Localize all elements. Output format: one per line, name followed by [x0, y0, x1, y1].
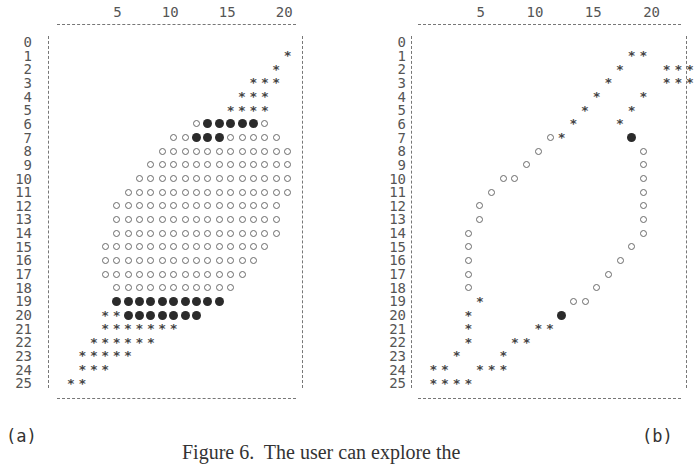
- star-marker-icon: *: [272, 76, 280, 89]
- grid-cell: [146, 242, 156, 252]
- grid-cell: [146, 296, 156, 306]
- star-marker-icon: *: [546, 322, 554, 335]
- grid-cell: [260, 160, 270, 170]
- open-circle-marker-icon: [193, 230, 200, 237]
- grid-cell: [180, 269, 190, 279]
- grid-cell: *: [428, 365, 438, 375]
- grid-cell: [123, 296, 133, 306]
- open-circle-marker-icon: [465, 243, 472, 250]
- open-circle-marker-icon: [250, 216, 257, 223]
- star-marker-icon: *: [78, 349, 86, 362]
- open-circle-marker-icon: [170, 216, 177, 223]
- grid-cell: [134, 269, 144, 279]
- open-circle-marker-icon: [147, 230, 154, 237]
- open-circle-marker-icon: [182, 216, 189, 223]
- grid-cell: [191, 119, 201, 129]
- open-circle-marker-icon: [535, 148, 542, 155]
- open-circle-marker-icon: [605, 271, 612, 278]
- grid-cell: *: [89, 351, 99, 361]
- filled-circle-marker-icon: [181, 311, 190, 320]
- open-circle-marker-icon: [239, 161, 246, 168]
- grid-cell: [260, 146, 270, 156]
- grid-cell: [112, 255, 122, 265]
- open-circle-marker-icon: [193, 189, 200, 196]
- grid-cell: [134, 174, 144, 184]
- grid-cell: [475, 201, 485, 211]
- open-circle-marker-icon: [125, 189, 132, 196]
- open-circle-marker-icon: [216, 257, 223, 264]
- grid-cell: *: [66, 378, 76, 388]
- filled-circle-marker-icon: [135, 297, 144, 306]
- grid-cell: [237, 174, 247, 184]
- grid-cell: *: [100, 337, 110, 347]
- open-circle-marker-icon: [170, 148, 177, 155]
- grid-cell: [169, 174, 179, 184]
- open-circle-marker-icon: [227, 216, 234, 223]
- open-circle-marker-icon: [193, 202, 200, 209]
- open-circle-marker-icon: [261, 202, 268, 209]
- grid-cell: [157, 228, 167, 238]
- grid-cell: [157, 160, 167, 170]
- star-marker-icon: *: [453, 349, 461, 362]
- open-circle-marker-icon: [216, 243, 223, 250]
- grid-cell: [203, 269, 213, 279]
- grid-cell: [260, 214, 270, 224]
- open-circle-marker-icon: [136, 284, 143, 291]
- grid-cell: *: [112, 324, 122, 334]
- filled-circle-marker-icon: [135, 311, 144, 320]
- grid-cell: [260, 119, 270, 129]
- open-circle-marker-icon: [170, 257, 177, 264]
- grid-cell: *: [146, 324, 156, 334]
- grid-cell: [271, 228, 281, 238]
- open-circle-marker-icon: [227, 271, 234, 278]
- grid-cell: [237, 201, 247, 211]
- open-circle-marker-icon: [159, 216, 166, 223]
- star-marker-icon: *: [476, 295, 484, 308]
- grid-cell: [123, 283, 133, 293]
- open-circle-marker-icon: [261, 161, 268, 168]
- open-circle-marker-icon: [125, 202, 132, 209]
- open-circle-marker-icon: [182, 230, 189, 237]
- grid-cell: [475, 214, 485, 224]
- grid-cell: *: [100, 365, 110, 375]
- grid-cell: [580, 296, 590, 306]
- grid-cell: [169, 296, 179, 306]
- filled-circle-marker-icon: [627, 133, 636, 142]
- grid-cell: *: [615, 64, 625, 74]
- grid-cell: *: [498, 365, 508, 375]
- star-marker-icon: *: [249, 104, 257, 117]
- grid-cell: [180, 255, 190, 265]
- open-circle-marker-icon: [204, 284, 211, 291]
- grid-cell: [134, 242, 144, 252]
- open-circle-marker-icon: [182, 189, 189, 196]
- grid-cell: [568, 296, 578, 306]
- open-circle-marker-icon: [147, 216, 154, 223]
- grid-cell: [169, 242, 179, 252]
- open-circle-marker-icon: [125, 243, 132, 250]
- star-marker-icon: *: [534, 322, 542, 335]
- star-marker-icon: *: [663, 63, 671, 76]
- filled-circle-marker-icon: [192, 311, 201, 320]
- open-circle-marker-icon: [640, 202, 647, 209]
- grid-cell: *: [568, 119, 578, 129]
- open-circle-marker-icon: [511, 175, 518, 182]
- left-dashed-border: [48, 36, 49, 388]
- grid-cell: [510, 174, 520, 184]
- open-circle-marker-icon: [216, 161, 223, 168]
- open-circle-marker-icon: [204, 202, 211, 209]
- open-circle-marker-icon: [216, 202, 223, 209]
- open-circle-marker-icon: [125, 216, 132, 223]
- grid-cell: *: [475, 296, 485, 306]
- grid-cell: [271, 133, 281, 143]
- grid-cell: *: [283, 51, 293, 61]
- open-circle-marker-icon: [465, 257, 472, 264]
- grid-cell: *: [522, 337, 532, 347]
- grid-cell: *: [134, 324, 144, 334]
- grid-cell: *: [673, 64, 683, 74]
- open-circle-marker-icon: [170, 175, 177, 182]
- open-circle-marker-icon: [250, 243, 257, 250]
- grid-cell: [592, 283, 602, 293]
- open-circle-marker-icon: [102, 271, 109, 278]
- star-marker-icon: *: [90, 349, 98, 362]
- star-marker-icon: *: [511, 336, 519, 349]
